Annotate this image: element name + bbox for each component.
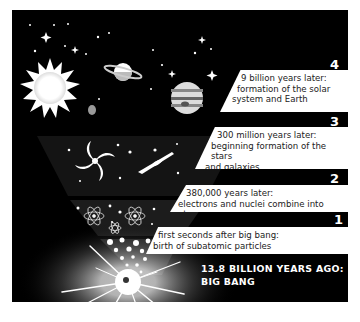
stage-label-1: first seconds after big bang: birth of s…	[146, 227, 348, 254]
sun-planets-icon	[20, 58, 203, 118]
jupiter-icon	[171, 82, 203, 114]
stage-label-2: 380,000 years later: electrons and nucle…	[170, 185, 348, 212]
moon-icon	[88, 105, 96, 115]
sun-icon	[20, 58, 80, 118]
stage-number-3: 3	[330, 115, 339, 128]
stage-label-4: 9 billion years later: formation of the …	[220, 70, 348, 112]
big-bang-headline: 13.8 BILLION YEARS AGO: BIG BANG	[201, 263, 344, 288]
universe-timeline-infographic: 4 9 billion years later: formation of th…	[12, 10, 348, 302]
stage-label-3: 300 million years later: beginning forma…	[195, 127, 348, 169]
stage-number-4: 4	[330, 58, 339, 71]
stage-number-2: 2	[330, 172, 339, 185]
saturn-icon	[104, 63, 143, 81]
stage-number-1: 1	[334, 213, 343, 226]
